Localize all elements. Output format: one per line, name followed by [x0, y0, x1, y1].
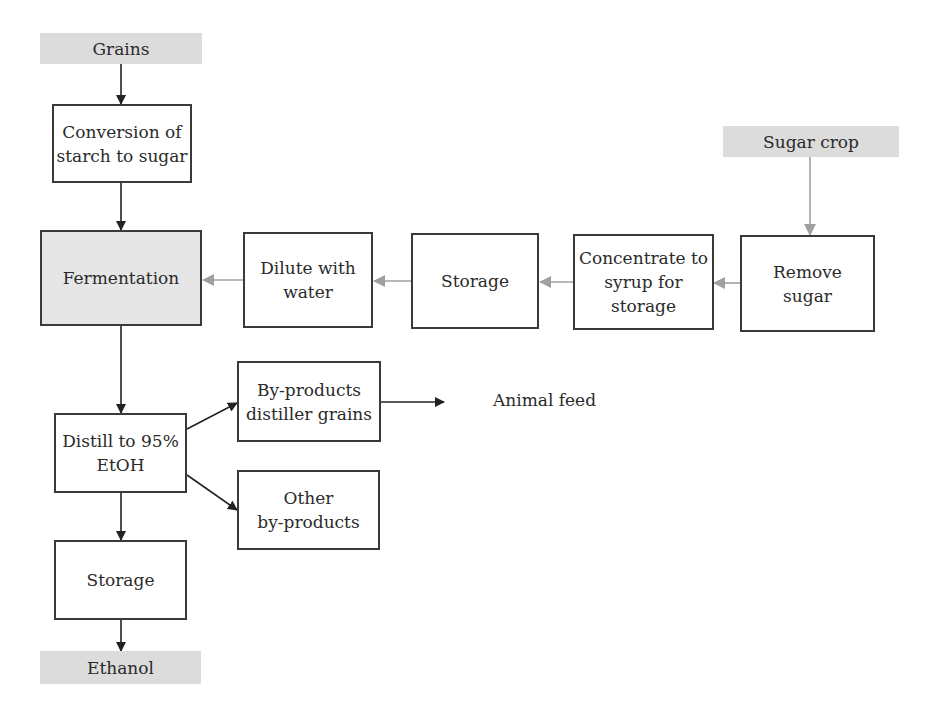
node-byproducts-grains: By-products distiller grains — [237, 361, 381, 442]
node-grains: Grains — [40, 33, 202, 64]
node-animal-feed: Animal feed — [493, 390, 596, 410]
node-byproducts-grains-label: By-products distiller grains — [246, 378, 372, 426]
node-grains-label: Grains — [93, 37, 150, 61]
node-storage-ethanol: Storage — [54, 540, 187, 620]
node-conversion-label: Conversion of starch to sugar — [57, 120, 188, 168]
node-distill: Distill to 95% EtOH — [54, 413, 187, 493]
node-sugar-crop-label: Sugar crop — [763, 130, 859, 154]
edge-distill-byproducts — [187, 403, 237, 429]
node-distill-label: Distill to 95% EtOH — [62, 429, 179, 477]
node-conversion: Conversion of starch to sugar — [52, 104, 192, 183]
node-storage-syrup-label: Storage — [441, 269, 509, 293]
node-concentrate-label: Concentrate to syrup for storage — [579, 246, 708, 318]
node-concentrate: Concentrate to syrup for storage — [573, 234, 714, 330]
node-remove-sugar: Remove sugar — [740, 235, 875, 332]
node-ethanol: Ethanol — [40, 651, 201, 684]
node-fermentation-label: Fermentation — [63, 266, 180, 290]
node-other-byproducts: Other by-products — [237, 470, 380, 550]
node-dilute-label: Dilute with water — [260, 256, 356, 304]
node-fermentation: Fermentation — [40, 230, 202, 326]
node-ethanol-label: Ethanol — [87, 656, 154, 680]
node-remove-sugar-label: Remove sugar — [773, 260, 842, 308]
edge-distill-other — [187, 475, 237, 510]
node-sugar-crop: Sugar crop — [723, 126, 899, 157]
node-dilute: Dilute with water — [243, 232, 373, 328]
node-other-byproducts-label: Other by-products — [257, 486, 359, 534]
node-storage-syrup: Storage — [411, 233, 539, 329]
node-storage-ethanol-label: Storage — [87, 568, 155, 592]
